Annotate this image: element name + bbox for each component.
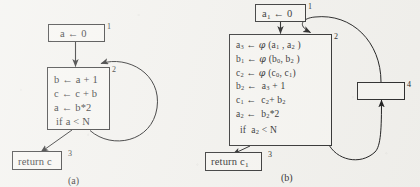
panel-a-caption: (a) [68, 176, 79, 186]
node-b-4-label: 4 [407, 81, 411, 89]
figure-canvas: a ← 0 1 b ← a + 1 c ← c + b a ← b*2 if a… [0, 0, 420, 187]
node-b-2-line-1: a3 ← φ (a1 , a2 ) [236, 40, 301, 51]
node-b-2-line-6: a2 ← b2*2 [236, 110, 280, 120]
node-a-3-line-1: return c [18, 157, 52, 168]
node-b-1-label: 1 [308, 3, 312, 11]
node-b-2-line-4: b2 ← a3 + 1 [236, 82, 285, 92]
node-a-3-label: 3 [68, 150, 72, 158]
node-a-2-line-3: a ← b*2 [54, 103, 92, 114]
node-a-2-label: 2 [112, 66, 116, 74]
node-b-2-line-3: c2 ← φ (c0, c1) [236, 68, 296, 79]
node-b-1-line-1: a1 ← 0 [262, 9, 292, 21]
node-a-1-line-1: a ← 0 [60, 29, 87, 40]
node-b-2-line-7: if a2 < N [240, 126, 277, 136]
node-b-3-line-1: return c1 [211, 157, 249, 169]
edge-b-2-to-4 [328, 100, 382, 160]
node-b-2-line-5: c1 ← c2+ b2 [236, 96, 286, 106]
node-b-2-line-2: b1 ← φ (b0, b2 ) [236, 54, 300, 65]
node-b-4 [357, 82, 405, 100]
node-a-1-label: 1 [107, 23, 111, 31]
node-a-2-line-2: c ← c + b [54, 89, 97, 100]
node-b-2-label: 2 [334, 33, 338, 41]
node-b-3-label: 3 [268, 151, 272, 159]
node-a-2-line-1: b ← a + 1 [54, 75, 98, 86]
panel-b-caption: (b) [281, 173, 293, 183]
node-a-2-line-4: if a < N [56, 117, 90, 128]
